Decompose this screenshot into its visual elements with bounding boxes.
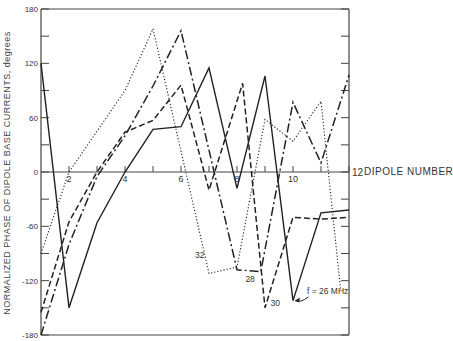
series-line-f-26-mhz <box>41 63 349 307</box>
series-line-30 <box>41 83 349 312</box>
curve-label: f = 26 MHz <box>307 286 348 296</box>
y-tick-label: -60 <box>26 222 38 231</box>
chart-annotations: 322830f = 26 MHz <box>195 250 348 308</box>
series-line-28 <box>41 31 349 335</box>
y-axis-label: NORMALIZED PHASE OF DIPOLE BASE CURRENTS… <box>2 31 12 315</box>
curve-label: 32 <box>195 250 205 260</box>
series-line-32 <box>41 29 341 290</box>
chart-series <box>41 29 349 335</box>
y-tick-label: 120 <box>25 59 39 68</box>
y-tick-label: 180 <box>25 5 39 14</box>
y-tick-label: -120 <box>22 277 39 286</box>
y-tick-label: 0 <box>34 168 39 177</box>
curve-label: 30 <box>271 298 281 308</box>
x-axis-label: DIPOLE NUMBER <box>364 166 453 177</box>
y-tick-label: -180 <box>22 331 39 340</box>
curve-label: 28 <box>245 274 255 284</box>
x-tick-label: 6 <box>178 174 183 184</box>
x-tick-label: 10 <box>288 174 298 184</box>
x-tick-label: 2 <box>66 174 71 184</box>
x-tick-label: 12 <box>352 167 364 178</box>
y-tick-label: 60 <box>29 114 38 123</box>
